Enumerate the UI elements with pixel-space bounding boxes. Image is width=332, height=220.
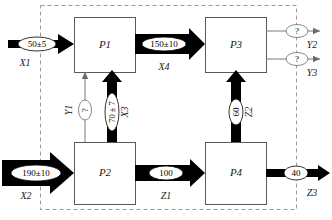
process-P2-label: P2	[98, 166, 112, 178]
flow-X1-label: X1	[18, 57, 30, 68]
flow-X4: 150±10 X4	[135, 28, 205, 72]
flow-Y3: ? Y3	[266, 53, 320, 79]
flow-Z1: 100 Z1	[135, 159, 205, 201]
flow-Z3-value: 40	[292, 168, 302, 178]
flow-Y2: ? Y2	[266, 25, 320, 51]
flow-Z2-value: 60	[231, 107, 241, 117]
flow-Y1-arrowhead	[82, 72, 88, 79]
flow-Y1-label: Y1	[63, 105, 74, 116]
flow-Y3-arrowhead	[313, 56, 320, 62]
flow-Y1: ? Y1	[63, 72, 92, 142]
flow-Z2-label: Z2	[243, 107, 254, 118]
flow-X4-label: X4	[157, 61, 169, 72]
flow-X2-value: 190±10	[22, 168, 50, 178]
flow-X2-label: X2	[19, 190, 31, 201]
flow-Y2-arrowhead	[313, 28, 320, 34]
flow-X3-label: X3	[119, 106, 130, 118]
flow-X1-value: 50±5	[28, 39, 47, 49]
flow-X3-value: 70 ± 7	[107, 101, 117, 123]
process-flow-diagram: 50±5 X1 P1 150±10 X4 P3 ? Y2 ?	[0, 0, 332, 220]
flow-Z1-value: 100	[159, 168, 173, 178]
flow-Y2-value: ?	[295, 26, 299, 36]
flow-Z3: 40 Z3	[266, 165, 330, 198]
flow-Z1-label: Z1	[161, 190, 172, 201]
flow-Z2: 60 Z2	[226, 70, 254, 142]
flow-Y1-value: ?	[80, 108, 90, 112]
process-P3-label: P3	[229, 38, 243, 50]
process-P1-label: P1	[98, 38, 111, 50]
flow-Y2-label: Y2	[307, 39, 318, 50]
flow-Z3-label: Z3	[307, 187, 318, 198]
diagram-canvas: 50±5 X1 P1 150±10 X4 P3 ? Y2 ?	[0, 0, 332, 220]
flow-X2: 190±10 X2	[2, 152, 74, 201]
flow-X3: 70 ± 7 X3	[102, 70, 130, 142]
flow-Y3-value: ?	[295, 54, 299, 64]
flow-Y3-label: Y3	[307, 67, 318, 78]
flow-X4-value: 150±10	[150, 39, 178, 49]
process-P4-label: P4	[229, 166, 243, 178]
